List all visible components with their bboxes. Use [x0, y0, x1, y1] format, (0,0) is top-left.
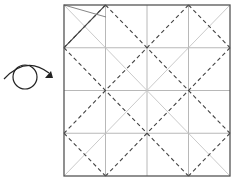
crease-pattern-diagram — [0, 0, 232, 179]
turn-over-icon — [4, 65, 53, 89]
paper-square — [64, 5, 230, 176]
